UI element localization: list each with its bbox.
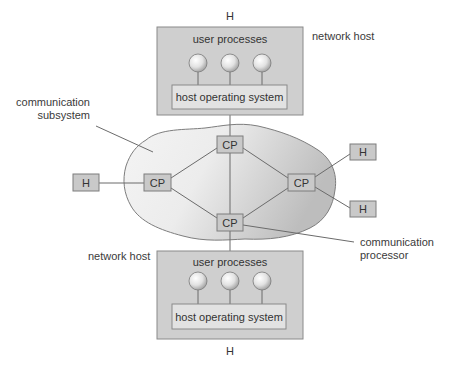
- user-process-icon: [253, 54, 271, 72]
- top-network-host: H user processes host operating system n…: [157, 10, 374, 115]
- bottom-network-host-label: network host: [88, 250, 150, 262]
- subsystem-callout-line: [96, 126, 153, 152]
- subsystem-label-line1: communication: [16, 96, 90, 108]
- bottom-network-host: user processes host operating system H n…: [88, 250, 303, 357]
- network-diagram: H user processes host operating system n…: [0, 0, 454, 379]
- bottom-user-processes-label: user processes: [193, 256, 268, 268]
- processor-label-line2: processor: [360, 249, 409, 261]
- processor-label-line1: communication: [360, 236, 434, 248]
- user-process-icon: [221, 54, 239, 72]
- subsystem-label-line2: subsystem: [37, 109, 90, 121]
- top-network-host-label: network host: [312, 30, 374, 42]
- cp-left-label: CP: [150, 177, 165, 189]
- user-process-icon: [221, 272, 239, 290]
- h-right-top-label: H: [359, 146, 367, 158]
- cp-top-label: CP: [222, 139, 237, 151]
- user-process-icon: [189, 54, 207, 72]
- top-host-os-label: host operating system: [176, 91, 284, 103]
- bottom-host-os-label: host operating system: [175, 311, 283, 323]
- top-host-h-label: H: [226, 10, 234, 22]
- h-right-bottom-label: H: [359, 203, 367, 215]
- user-process-icon: [189, 272, 207, 290]
- cp-bottom-label: CP: [222, 217, 237, 229]
- bottom-host-h-label: H: [226, 345, 234, 357]
- h-left-label: H: [82, 177, 90, 189]
- cp-right-label: CP: [294, 177, 309, 189]
- user-process-icon: [253, 272, 271, 290]
- top-user-processes-label: user processes: [193, 33, 268, 45]
